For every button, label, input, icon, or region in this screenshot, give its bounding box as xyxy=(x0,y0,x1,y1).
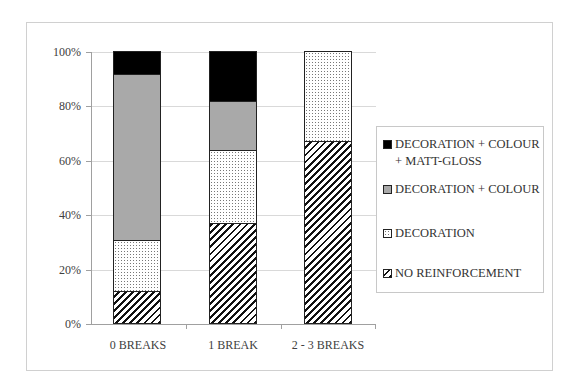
bar-segment-no-reinforcement xyxy=(209,223,257,324)
x-tick xyxy=(375,324,376,329)
y-axis xyxy=(91,52,92,324)
y-label-40: 40% xyxy=(30,208,81,222)
y-label-0: 0% xyxy=(30,317,81,331)
bar-2-3-breaks xyxy=(304,52,352,324)
legend-label: NO REINFORCEMENT xyxy=(395,265,545,282)
bar-0-breaks xyxy=(113,52,161,324)
bar-segment-decoration-colour xyxy=(209,101,257,151)
y-tick xyxy=(86,161,91,162)
x-label-1-break: 1 BREAK xyxy=(185,338,281,352)
legend-label: DECORATION + COLOUR + MATT-GLOSS xyxy=(395,136,545,170)
bar-segment-decoration xyxy=(209,150,257,224)
x-axis xyxy=(86,324,376,325)
bar-segment-decoration xyxy=(113,240,161,293)
bar-segment-decoration-colour-matt-gloss xyxy=(113,51,161,75)
legend-swatch-hatched xyxy=(383,269,392,278)
x-tick xyxy=(186,324,187,329)
legend: DECORATION + COLOUR + MATT-GLOSS DECORAT… xyxy=(376,126,544,293)
x-label-0-breaks: 0 BREAKS xyxy=(90,338,186,352)
bar-segment-decoration-colour-matt-gloss xyxy=(209,51,257,102)
bar-segment-decoration xyxy=(304,51,352,142)
legend-swatch-dotted xyxy=(383,229,392,238)
y-tick xyxy=(86,215,91,216)
y-tick xyxy=(86,270,91,271)
x-label-2-3-breaks: 2 - 3 BREAKS xyxy=(280,338,376,352)
y-label-100: 100% xyxy=(30,45,81,59)
y-tick xyxy=(86,52,91,53)
y-label-60: 60% xyxy=(30,154,81,168)
bar-segment-decoration-colour xyxy=(113,74,161,241)
legend-label: DECORATION xyxy=(395,225,545,242)
y-tick xyxy=(86,106,91,107)
bar-segment-no-reinforcement xyxy=(113,291,161,324)
y-label-80: 80% xyxy=(30,99,81,113)
legend-label: DECORATION + COLOUR xyxy=(395,181,545,198)
legend-swatch-gray xyxy=(383,185,392,194)
y-label-20: 20% xyxy=(30,263,81,277)
legend-swatch-black xyxy=(383,140,392,149)
x-tick xyxy=(281,324,282,329)
bar-1-break xyxy=(209,52,257,324)
bar-segment-no-reinforcement xyxy=(304,141,352,324)
